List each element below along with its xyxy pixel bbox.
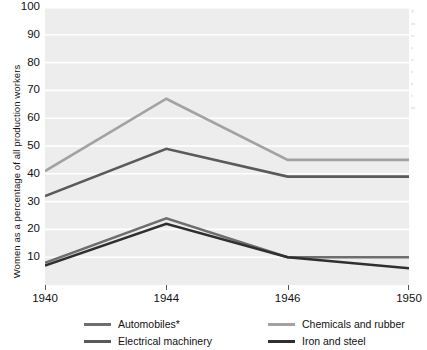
legend-item-automobiles[interactable]: Automobiles*: [84, 319, 268, 330]
legend-swatch-chemicals-and-rubber: [268, 323, 295, 326]
page-margin-text-line: o: [411, 54, 427, 66]
page-margin-text-line: a: [411, 78, 427, 90]
y-axis-tick-label: 20: [4, 224, 40, 236]
legend-item-chemicals-and-rubber[interactable]: Chemicals and rubber: [268, 319, 427, 330]
legend-label-iron-and-steel: Iron and steel: [302, 336, 366, 347]
y-axis-tick-label: 60: [4, 112, 40, 124]
plot-svg: [45, 7, 409, 285]
legend-swatch-automobiles: [84, 323, 111, 326]
y-axis-tick-label: 70: [4, 85, 40, 97]
page-margin-text-line: T: [411, 6, 427, 18]
y-axis-tick-label: 50: [4, 140, 40, 152]
legend-swatch-iron-and-steel: [268, 340, 295, 343]
page-margin-text: Tinwsocafin: [411, 0, 427, 300]
x-axis-tick-mark: [45, 285, 46, 290]
x-axis-tick-mark: [288, 285, 289, 290]
legend-label-electrical-machinery: Electrical machinery: [118, 336, 212, 347]
y-axis-tick-label: 90: [4, 29, 40, 41]
series-line-electrical-machinery: [45, 149, 409, 196]
page-margin-text-line: w: [411, 30, 427, 42]
x-axis-tick-label: 1946: [253, 293, 323, 305]
chart-legend: Automobiles* Chemicals and rubber Electr…: [84, 316, 424, 350]
page-margin-text-line: f: [411, 90, 427, 102]
page-margin-text-line: c: [411, 66, 427, 78]
x-axis-tick-label: 1944: [131, 293, 201, 305]
series-line-chemicals-and-rubber: [45, 99, 409, 171]
x-axis-tick-mark: [408, 285, 409, 290]
y-axis-tick-label: 100: [4, 1, 40, 13]
legend-item-electrical-machinery[interactable]: Electrical machinery: [84, 336, 268, 347]
series-line-iron-and-steel: [45, 224, 409, 268]
legend-label-chemicals-and-rubber: Chemicals and rubber: [302, 319, 405, 330]
page-margin-text-line: s: [411, 42, 427, 54]
legend-swatch-electrical-machinery: [84, 340, 111, 343]
chart-figure: Women as a percentage of all production …: [0, 0, 427, 350]
plot-area: 1020304050607080901001940194419461950: [45, 7, 409, 285]
legend-item-iron-and-steel[interactable]: Iron and steel: [268, 336, 427, 347]
x-axis-tick-label: 1940: [10, 293, 80, 305]
y-axis-tick-label: 40: [4, 168, 40, 180]
y-axis-tick-label: 10: [4, 251, 40, 263]
y-axis-tick-label: 30: [4, 196, 40, 208]
x-axis-tick-mark: [166, 285, 167, 290]
y-axis-tick-label: 80: [4, 57, 40, 69]
page-margin-text-line: in: [411, 18, 427, 30]
legend-label-automobiles: Automobiles*: [118, 319, 180, 330]
page-margin-text-line: in: [411, 102, 427, 114]
